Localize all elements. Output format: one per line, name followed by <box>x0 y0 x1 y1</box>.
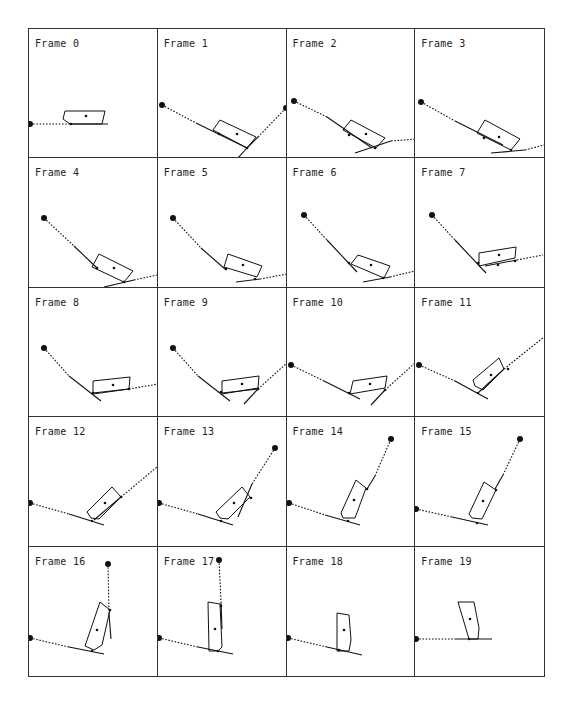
solid-link <box>198 514 233 525</box>
joint-dot <box>337 648 340 651</box>
dotted-link <box>121 467 157 497</box>
center-of-mass-dot <box>364 133 367 136</box>
center-of-mass-dot <box>235 133 238 136</box>
body-box <box>458 602 479 639</box>
frame-label: Frame 3 <box>421 38 465 49</box>
frame-label: Frame 10 <box>293 297 344 308</box>
dotted-link <box>30 503 69 514</box>
frame-label: Frame 0 <box>35 38 79 49</box>
dotted-link <box>391 139 416 141</box>
center-of-mass-dot <box>104 502 107 505</box>
dotted-link <box>517 255 543 260</box>
joint-dot <box>219 604 222 607</box>
anchor-point <box>29 121 33 127</box>
solid-link <box>355 141 391 153</box>
dotted-link <box>134 275 157 280</box>
frame-cell-12: Frame 12 <box>29 417 158 546</box>
body-box <box>351 255 390 278</box>
frame-cell-13: Frame 13 <box>158 417 287 546</box>
dotted-link <box>162 105 196 123</box>
body-box <box>222 376 259 394</box>
dotted-link <box>288 638 327 647</box>
joint-dot <box>91 520 94 523</box>
frame-cell-8: Frame 8 <box>29 288 158 417</box>
solid-link <box>327 240 357 272</box>
solid-link <box>324 381 360 399</box>
solid-link <box>69 647 104 654</box>
dotted-link <box>44 348 69 376</box>
solid-link <box>363 277 390 282</box>
solid-link <box>69 376 101 401</box>
dotted-link <box>432 215 455 240</box>
frame-cell-17: Frame 17 <box>158 547 287 676</box>
anchor-point <box>415 636 419 642</box>
joint-dot <box>70 123 73 126</box>
joint-dot <box>123 281 126 284</box>
center-of-mass-dot <box>498 254 501 257</box>
anchor-point <box>158 500 162 506</box>
anchor-point <box>517 436 523 442</box>
body-box <box>85 602 110 650</box>
dotted-link <box>159 503 198 514</box>
frame-label: Frame 8 <box>35 297 79 308</box>
dotted-link <box>385 363 415 390</box>
dotted-link <box>294 101 327 117</box>
anchor-point <box>429 212 435 218</box>
dotted-link <box>252 448 275 484</box>
frame-cell-2: Frame 2 <box>287 29 416 158</box>
joint-dot <box>347 262 350 265</box>
joint-dot <box>468 637 471 640</box>
dotted-link <box>419 365 455 381</box>
frame-label: Frame 1 <box>164 38 208 49</box>
solid-link <box>198 376 230 401</box>
joint-dot <box>92 391 95 394</box>
dotted-link <box>44 218 74 246</box>
anchor-point <box>158 635 162 641</box>
center-of-mass-dot <box>368 382 371 385</box>
anchor-point <box>388 436 394 442</box>
joint-dot <box>219 390 222 393</box>
frame-label: Frame 14 <box>293 426 344 437</box>
frame-cell-5: Frame 5 <box>158 158 287 287</box>
frame-cell-10: Frame 10 <box>287 288 416 417</box>
anchor-point <box>170 345 176 351</box>
anchor-point <box>216 557 222 563</box>
joint-dot <box>224 268 227 271</box>
dotted-link <box>258 363 287 389</box>
anchor-point <box>41 345 47 351</box>
frame-label: Frame 2 <box>293 38 337 49</box>
center-of-mass-dot <box>352 499 355 502</box>
dotted-link <box>108 564 109 614</box>
anchor-point <box>291 98 297 104</box>
frame-cell-4: Frame 4 <box>29 158 158 287</box>
dotted-link <box>159 638 198 647</box>
anchor-point <box>287 635 291 641</box>
joint-dot <box>256 387 259 390</box>
dotted-link <box>258 108 286 137</box>
solid-link <box>367 476 375 489</box>
joint-dot <box>346 520 349 523</box>
anchor-point <box>29 500 33 506</box>
anchor-point <box>159 102 165 108</box>
center-of-mass-dot <box>240 382 243 385</box>
frame-label: Frame 6 <box>293 167 337 178</box>
joint-dot <box>495 489 498 492</box>
frame-cell-3: Frame 3 <box>415 29 544 158</box>
joint-dot <box>217 133 220 136</box>
joint-dot <box>507 367 510 370</box>
joint-dot <box>365 488 368 491</box>
solid-link <box>455 240 486 273</box>
center-of-mass-dot <box>85 115 88 118</box>
anchor-point <box>415 506 419 512</box>
dotted-link <box>503 439 520 475</box>
center-of-mass-dot <box>96 628 99 631</box>
center-of-mass-dot <box>241 264 244 267</box>
frame-cell-9: Frame 9 <box>158 288 287 417</box>
anchor-point <box>288 362 294 368</box>
frame-cell-15: Frame 15 <box>415 417 544 546</box>
solid-link <box>104 280 134 287</box>
dotted-link <box>260 274 287 279</box>
center-of-mass-dot <box>469 617 472 620</box>
frame-label: Frame 9 <box>164 297 208 308</box>
joint-dot <box>510 149 513 152</box>
